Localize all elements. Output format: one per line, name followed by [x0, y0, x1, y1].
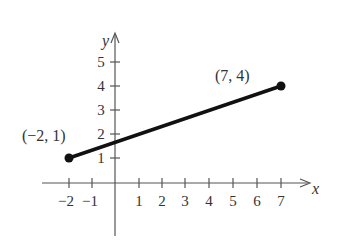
- x-axis: [42, 179, 310, 187]
- y-tick-label: 3: [97, 102, 105, 118]
- y-tick-label: 4: [97, 78, 105, 94]
- y-tick-label: 2: [97, 126, 105, 142]
- x-tick-label: 4: [205, 193, 213, 209]
- y-axis-label: y: [100, 32, 110, 50]
- y-tick-label: 5: [97, 54, 105, 70]
- x-tick-label: −1: [82, 193, 98, 209]
- point-b-label: (7, 4): [215, 67, 250, 85]
- x-tick-label: 6: [253, 193, 261, 209]
- x-tick-label: 1: [135, 193, 143, 209]
- x-tick-label: 3: [181, 193, 189, 209]
- x-tick-labels: −2 −1 1 2 3 4 5 6 7: [58, 193, 285, 209]
- coordinate-plot: −2 −1 1 2 3 4 5 6 7 1 2 3 4 5 y x (−2, 1…: [0, 0, 351, 244]
- y-tick-label: 1: [97, 150, 105, 166]
- x-tick-label: 5: [229, 193, 237, 209]
- x-tick-label: −2: [58, 193, 74, 209]
- point-a-label: (−2, 1): [22, 127, 66, 145]
- endpoint-b-marker: [277, 82, 286, 91]
- endpoint-a-marker: [65, 154, 74, 163]
- x-tick-label: 7: [277, 193, 285, 209]
- x-tick-label: 2: [158, 193, 166, 209]
- x-axis-label: x: [311, 180, 319, 197]
